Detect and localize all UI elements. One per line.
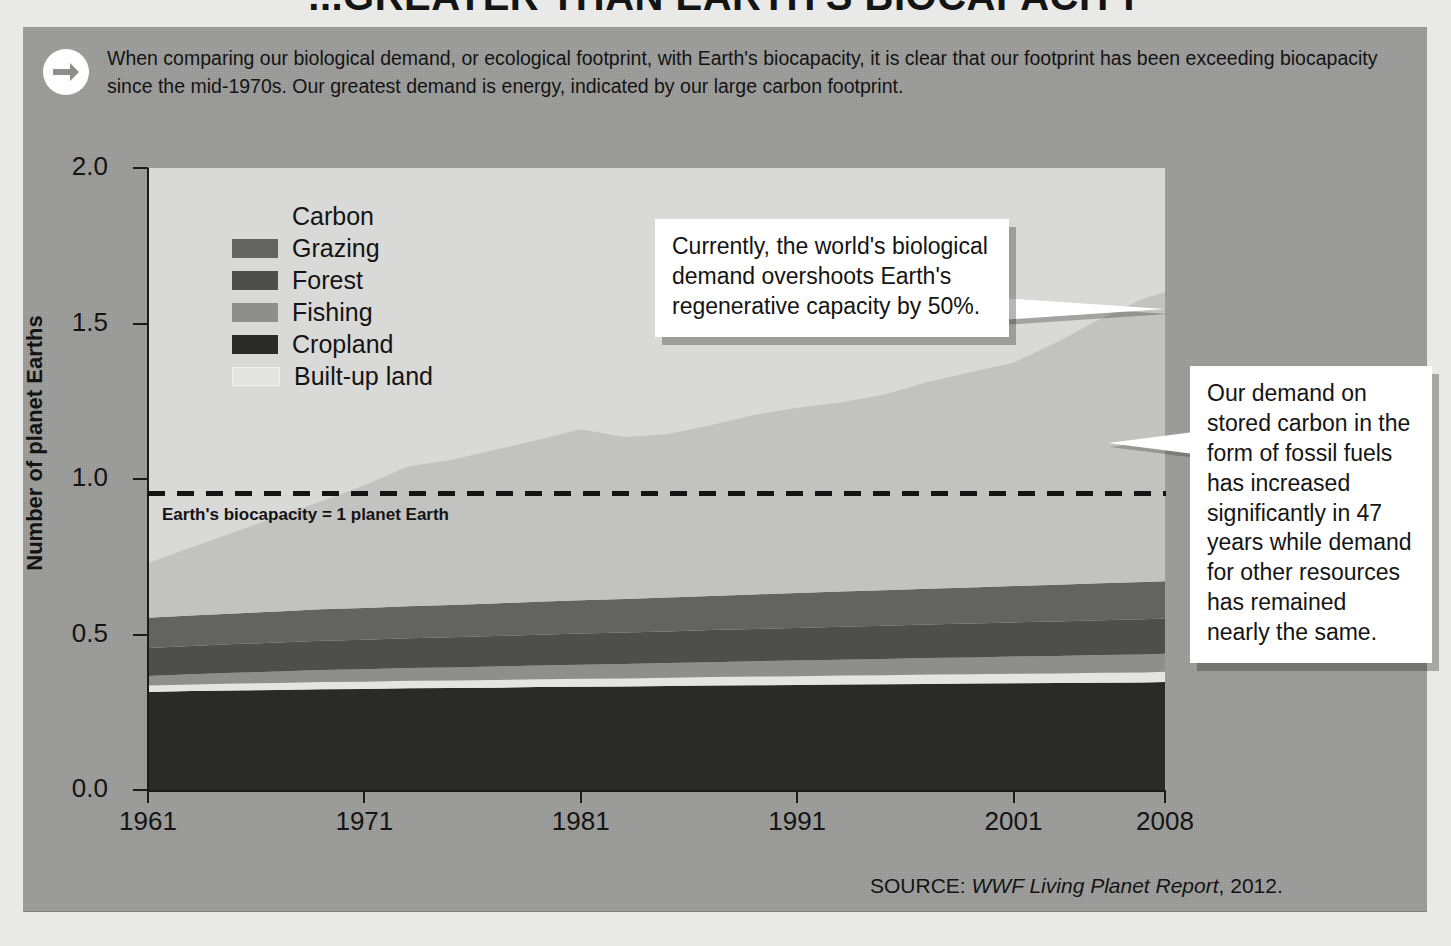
legend-label-built-up-land: Built-up land <box>294 364 433 389</box>
y-tick-0.0 <box>133 789 148 791</box>
chart-legend: CarbonGrazingForestFishingCroplandBuilt-… <box>232 200 433 392</box>
legend-item-cropland: Cropland <box>232 328 433 360</box>
legend-swatch-built-up-land <box>232 367 280 386</box>
legend-swatch-cropland <box>232 335 278 354</box>
biocapacity-line-label: Earth's biocapacity = 1 planet Earth <box>162 505 449 525</box>
x-tick-label-2008: 2008 <box>1136 806 1194 837</box>
y-tick-label-0.5: 0.5 <box>40 618 108 649</box>
source-line: SOURCE: WWF Living Planet Report, 2012. <box>870 874 1283 898</box>
x-tick-1971 <box>363 790 365 803</box>
legend-item-built-up-land: Built-up land <box>232 360 433 392</box>
source-title: WWF Living Planet Report <box>972 874 1219 897</box>
y-tick-1.5 <box>133 323 148 325</box>
x-tick-2001 <box>1013 790 1015 803</box>
y-tick-label-2.0: 2.0 <box>40 151 108 182</box>
legend-swatch-fishing <box>232 303 278 322</box>
callout-overshoot: Currently, the world's biological demand… <box>655 219 1009 337</box>
y-tick-2.0 <box>133 167 148 169</box>
infographic-page: ...GREATER THAN EARTH'S BIOCAPACITY When… <box>0 0 1451 946</box>
legend-item-forest: Forest <box>232 264 433 296</box>
legend-swatch-carbon <box>232 207 278 226</box>
x-tick-label-1971: 1971 <box>335 806 393 837</box>
callout-carbon-tail <box>1108 432 1194 454</box>
area-cropland <box>148 682 1165 790</box>
x-tick-label-1981: 1981 <box>552 806 610 837</box>
x-tick-label-1961: 1961 <box>119 806 177 837</box>
x-tick-1981 <box>580 790 582 803</box>
legend-label-carbon: Carbon <box>292 204 374 229</box>
x-tick-label-2001: 2001 <box>985 806 1043 837</box>
y-tick-1.0 <box>133 478 148 480</box>
source-prefix: SOURCE: <box>870 874 972 897</box>
y-axis-title: Number of planet Earths <box>22 233 48 653</box>
stacked-area-chart: 0.00.51.01.52.0 196119711981199120012008… <box>0 0 1451 946</box>
source-suffix: , 2012. <box>1219 874 1283 897</box>
x-tick-1991 <box>796 790 798 803</box>
x-tick-2008 <box>1164 790 1166 803</box>
callout-carbon: Our demand on stored carbon in the form … <box>1190 366 1432 663</box>
y-tick-label-0.0: 0.0 <box>40 773 108 804</box>
biocapacity-reference-line <box>148 491 1166 496</box>
legend-label-fishing: Fishing <box>292 300 373 325</box>
legend-label-grazing: Grazing <box>292 236 380 261</box>
legend-label-cropland: Cropland <box>292 332 393 357</box>
y-tick-label-1.5: 1.5 <box>40 307 108 338</box>
legend-item-carbon: Carbon <box>232 200 433 232</box>
legend-swatch-grazing <box>232 239 278 258</box>
legend-swatch-forest <box>232 271 278 290</box>
x-tick-label-1991: 1991 <box>768 806 826 837</box>
legend-label-forest: Forest <box>292 268 363 293</box>
y-tick-label-1.0: 1.0 <box>40 462 108 493</box>
legend-item-grazing: Grazing <box>232 232 433 264</box>
legend-item-fishing: Fishing <box>232 296 433 328</box>
x-tick-1961 <box>147 790 149 803</box>
y-tick-0.5 <box>133 634 148 636</box>
